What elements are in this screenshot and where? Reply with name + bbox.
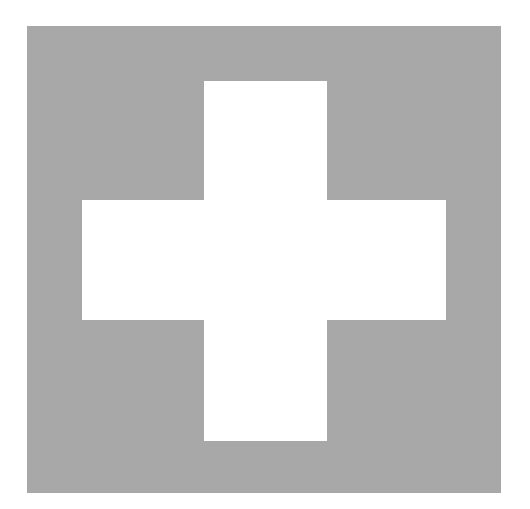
cross-horizontal-bar	[82, 200, 446, 320]
gray-square	[27, 26, 501, 493]
